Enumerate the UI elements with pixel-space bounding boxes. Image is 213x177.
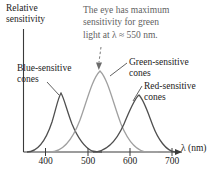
curve-label-red-sensitive-cones: Red-sensitive cones <box>144 81 196 103</box>
callout-arrowhead <box>96 63 102 71</box>
y-axis-label: Relative sensitivity <box>6 3 45 25</box>
leader-line-red <box>133 86 142 101</box>
curve-blue-sensitive <box>27 93 102 152</box>
leader-line-green <box>110 63 127 76</box>
x-tick-label-600: 600 <box>123 156 137 166</box>
x-tick-label-500: 500 <box>81 156 95 166</box>
curve-label-green-sensitive-cones: Green-sensitive cones <box>129 57 189 79</box>
curve-red-sensitive <box>93 95 175 152</box>
x-tick-label-700: 700 <box>165 156 179 166</box>
cone-sensitivity-figure: Relative sensitivity The eye has maximum… <box>0 0 213 177</box>
curve-label-blue-sensitive-cones: Blue-sensitive cones <box>17 63 71 85</box>
x-axis-label: λ (nm) <box>181 143 206 154</box>
x-tick-label-400: 400 <box>38 156 52 166</box>
callout-dashed-line <box>99 47 101 62</box>
callout-note-text: The eye has maximum sensitivity for gree… <box>83 4 169 41</box>
